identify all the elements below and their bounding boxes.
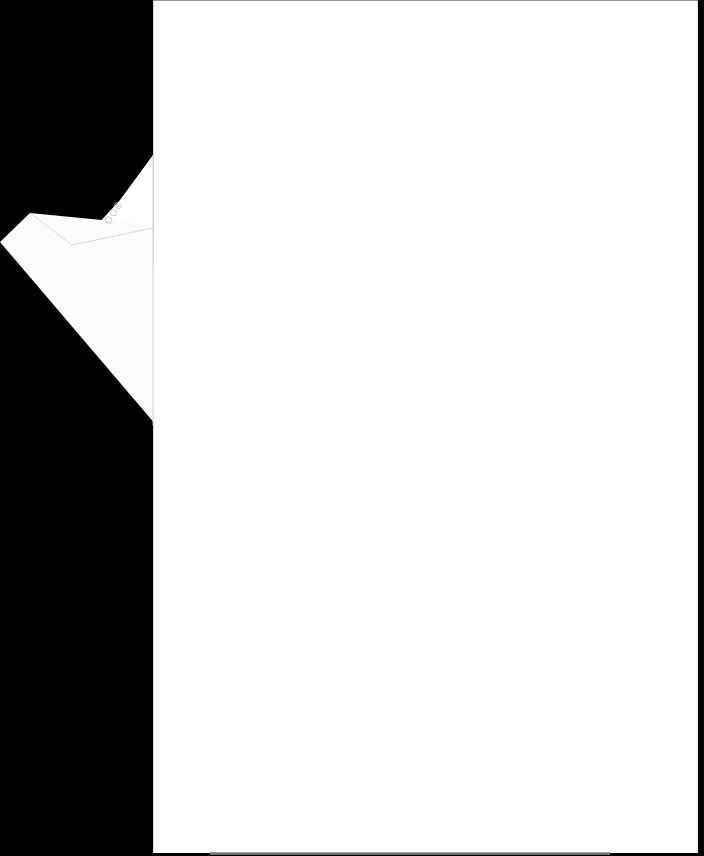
folded-corner-flap: [0, 150, 160, 425]
page-bottom-edge: [210, 852, 610, 855]
blank-document-page: [153, 1, 698, 853]
